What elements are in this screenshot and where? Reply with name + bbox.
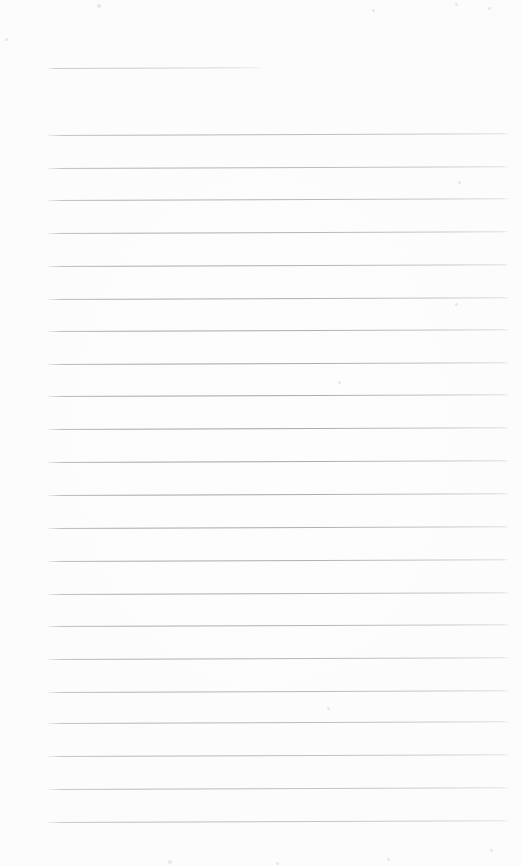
body-rule-5: [48, 264, 508, 267]
body-rule-6: [48, 297, 508, 300]
scanned-page: [0, 0, 522, 866]
body-rule-8: [48, 362, 508, 365]
body-rule-16: [48, 624, 508, 627]
body-rule-20: [48, 754, 508, 757]
body-rule-12: [48, 493, 508, 496]
body-rule-10: [48, 427, 508, 430]
body-rule-21: [48, 787, 508, 790]
body-rule-3: [48, 198, 508, 201]
body-rule-22: [48, 820, 508, 823]
body-rule-9: [48, 394, 508, 397]
body-rule-2: [48, 166, 508, 169]
body-rule-15: [48, 592, 508, 595]
body-rule-1: [48, 133, 508, 136]
body-rule-14: [48, 559, 508, 562]
rule-layer: [0, 0, 522, 866]
body-rule-17: [48, 657, 508, 660]
body-rule-13: [48, 526, 508, 529]
body-rule-7: [48, 329, 508, 332]
body-rule-19: [48, 721, 508, 724]
body-rule-18: [48, 690, 508, 693]
body-rule-4: [48, 231, 508, 234]
body-rule-11: [48, 460, 508, 463]
header-rule: [48, 67, 262, 69]
